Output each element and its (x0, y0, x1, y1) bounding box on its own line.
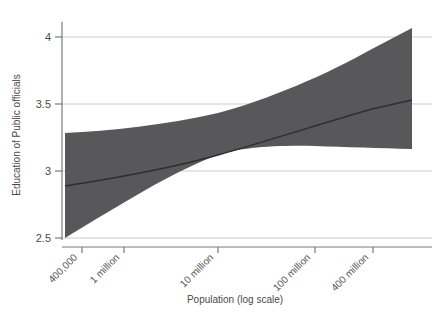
y-tick-label-4: 4 (45, 31, 51, 43)
y-tick-label-2-5: 2.5 (36, 232, 51, 244)
chart-container: 4 3.5 3 2.5 400,000 1 million 10 million… (0, 0, 432, 322)
y-axis-title: Education of Public officials (11, 74, 22, 196)
y-tick-label-3-5: 3.5 (36, 98, 51, 110)
population-education-chart: 4 3.5 3 2.5 400,000 1 million 10 million… (0, 0, 432, 322)
x-axis-title: Population (log scale) (187, 294, 283, 305)
y-tick-label-3: 3 (45, 165, 51, 177)
